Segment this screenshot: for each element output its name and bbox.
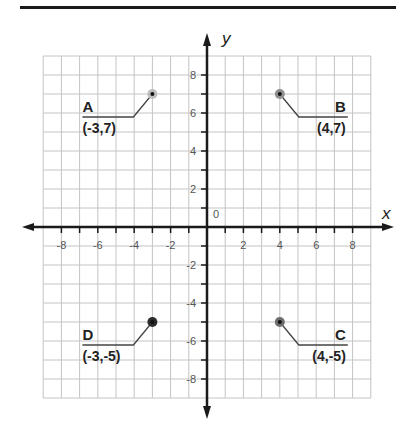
x-tick-label: 8	[350, 239, 356, 251]
y-axis-label: y	[221, 29, 232, 48]
point-name-label: B	[335, 98, 346, 115]
y-tick-label: 8	[190, 69, 196, 81]
arrow-up-icon	[203, 33, 211, 46]
coordinate-plane: xy -8-6-4-224688642-2-4-6-80 A(-3,7)B(4,…	[0, 0, 415, 424]
point-center-icon	[278, 92, 282, 96]
point-coordinate-label: (4,7)	[317, 120, 346, 136]
x-tick-label: -8	[57, 239, 67, 251]
point-center-icon	[150, 92, 154, 96]
point-coordinate-label: (-3,-5)	[82, 348, 120, 364]
arrow-left-icon	[22, 223, 34, 231]
x-tick-label: -4	[129, 239, 139, 251]
origin-label: 0	[213, 208, 219, 220]
point-center-icon	[150, 320, 154, 324]
y-tick-label: 6	[190, 107, 196, 119]
y-tick-label: -8	[186, 373, 196, 385]
point-name-label: C	[335, 326, 346, 343]
point-coordinate-label: (4,-5)	[312, 348, 345, 364]
y-tick-label: -6	[186, 335, 196, 347]
x-tick-label: -2	[166, 239, 176, 251]
arrow-right-icon	[382, 223, 394, 231]
point-name-label: D	[82, 326, 93, 343]
y-tick-label: 4	[190, 145, 196, 157]
x-axis-label: x	[381, 204, 391, 223]
point-center-icon	[278, 320, 282, 324]
y-tick-label: -4	[186, 297, 196, 309]
point-coordinate-label: (-3,7)	[82, 120, 115, 136]
x-tick-label: 4	[277, 239, 283, 251]
arrow-down-icon	[203, 406, 211, 419]
point-name-label: A	[82, 98, 93, 115]
x-tick-label: -6	[93, 239, 103, 251]
y-tick-label: 2	[190, 183, 196, 195]
x-tick-label: 2	[240, 239, 246, 251]
x-tick-label: 6	[313, 239, 319, 251]
y-tick-label: -2	[186, 259, 196, 271]
